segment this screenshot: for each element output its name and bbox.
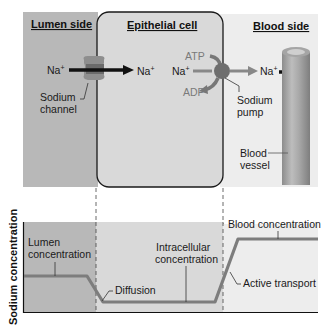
y-axis-label: Sodium concentration	[7, 209, 19, 325]
atp-label: ATP	[185, 50, 205, 62]
lumen-concentration-label-2: concentration	[28, 248, 91, 260]
chart-blood-bg	[223, 224, 318, 312]
sodium-channel-label: Sodium	[40, 91, 76, 103]
sodium-channel-icon	[84, 56, 105, 80]
active-transport-label: Active transport	[243, 277, 316, 289]
intracellular-concentration-label: Intracellular	[156, 241, 211, 253]
sodium-channel-label-2: channel	[40, 103, 77, 115]
blood-side-header: Blood side	[253, 20, 309, 32]
blood-vessel-label: Blood	[240, 147, 267, 159]
sodium-pump-icon	[214, 63, 230, 79]
adp-label: ADP	[183, 86, 205, 98]
sodium-pump-label-2: pump	[237, 106, 263, 118]
top-panel: Lumen side Epithelial cell Blood side Na…	[23, 12, 318, 187]
blood-vessel-icon	[282, 47, 310, 185]
lumen-side-header: Lumen side	[31, 18, 92, 30]
concentration-chart: Sodium concentration Lumen concentration…	[7, 209, 321, 325]
blood-vessel-label-2: vessel	[240, 159, 270, 171]
sodium-transport-diagram: Lumen side Epithelial cell Blood side Na…	[0, 0, 327, 334]
chart-cell-bg	[96, 222, 223, 312]
epithelial-cell-header: Epithelial cell	[127, 19, 197, 31]
diffusion-label: Diffusion	[115, 284, 156, 296]
blood-concentration-label: Blood concentration	[228, 218, 321, 230]
intracellular-concentration-label-2: concentration	[155, 253, 218, 265]
sodium-pump-label: Sodium	[237, 94, 273, 106]
epithelial-cell	[97, 12, 223, 187]
lumen-concentration-label: Lumen	[28, 236, 60, 248]
